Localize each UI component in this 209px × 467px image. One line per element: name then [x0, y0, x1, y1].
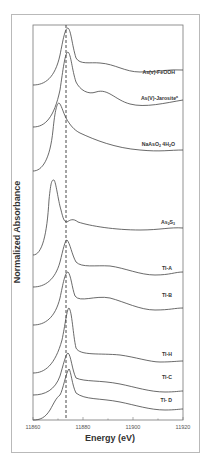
x-ticks: [33, 417, 183, 420]
label-tl-h: Tl-H: [162, 351, 172, 357]
spectrum-naaso2: [33, 103, 183, 171]
label-as-jarosite: As(V)-Jarositea: [141, 95, 178, 102]
label-tl-d: Tl- D: [160, 397, 172, 403]
spectrum-tl-b: [33, 272, 183, 325]
label-tl-b: Tl-B: [162, 292, 172, 298]
x-axis-title: Energy (eV): [85, 433, 135, 443]
spectrum-tl-c: [33, 353, 183, 395]
spectrum-tl-a: [33, 240, 183, 287]
label-tl-a: Tl-A: [162, 265, 172, 271]
x-tick-11860: 11860: [26, 424, 41, 430]
xanes-chart: As(v)-FeOOH As(V)-Jarositea NaAsO2 4H2O …: [0, 0, 209, 467]
spectrum-tl-h: [33, 308, 183, 373]
x-tick-11900: 11900: [126, 424, 141, 430]
label-naaso2: NaAsO2 4H2O: [142, 141, 175, 148]
y-axis-title: Normalized Absorbance: [12, 181, 22, 284]
spectrum-as-jarosite: [33, 52, 183, 127]
label-as2s3: As2S3: [161, 219, 175, 226]
spectrum-as2s3: [33, 180, 183, 255]
label-as-feooh: As(v)-FeOOH: [142, 69, 175, 75]
spectrum-as-feooh: [33, 28, 183, 85]
x-tick-11880: 11880: [76, 424, 91, 430]
label-tl-c: Tl-C: [162, 374, 172, 380]
x-tick-11920: 11920: [176, 424, 191, 430]
spectrum-tl-d: [33, 369, 183, 420]
